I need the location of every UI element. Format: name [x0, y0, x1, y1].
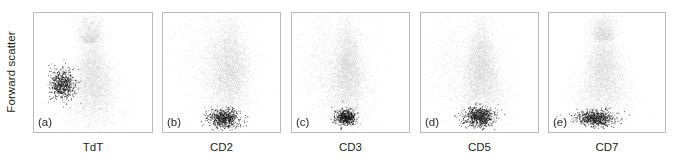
panel-e: (e) — [548, 12, 666, 133]
panel-letter-e: (e) — [553, 115, 567, 129]
y-axis-label: Forward scatter — [4, 12, 18, 132]
x-axis-label-a: TdT — [33, 140, 153, 154]
x-axis-label-c: CD3 — [291, 140, 410, 154]
panel-d: (d) — [420, 12, 539, 133]
x-axis-label-d: CD5 — [420, 140, 539, 154]
panel-c: (c) — [291, 12, 410, 133]
panel-letter-a: (a) — [38, 115, 52, 129]
x-axis-label-b: CD2 — [162, 140, 281, 154]
panel-b: (b) — [162, 12, 281, 133]
scatter-plot-c — [292, 13, 409, 132]
panel-letter-b: (b) — [167, 115, 181, 129]
x-axis-label-e: CD7 — [548, 140, 666, 154]
panel-letter-c: (c) — [296, 115, 309, 129]
panel-letter-d: (d) — [425, 115, 439, 129]
panel-a: (a) — [33, 12, 153, 133]
flow-cytometry-figure: Forward scatter (a) TdT (b) CD2 (c) CD3 … — [0, 0, 680, 164]
